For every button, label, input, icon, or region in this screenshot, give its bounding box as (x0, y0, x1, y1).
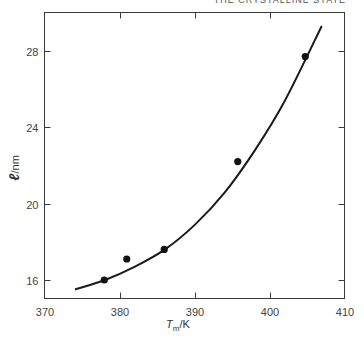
axis-ticks (45, 13, 345, 299)
tick-label: 20 (26, 199, 38, 211)
tick-label: 370 (36, 306, 54, 318)
tick-label: 28 (26, 46, 38, 58)
x-axis-label: Tm/K (166, 318, 190, 333)
fitted-curve (75, 26, 322, 290)
chart: 37038039040041016202428 Tm/K ℓ/nm (0, 0, 364, 338)
y-axis-label: ℓ/nm (6, 155, 22, 181)
tick-label: 390 (186, 306, 204, 318)
data-point (123, 255, 130, 262)
plot-frame (45, 13, 345, 299)
tick-label: 410 (336, 306, 354, 318)
data-point (302, 53, 309, 60)
tick-label: 400 (261, 306, 279, 318)
data-points (101, 53, 309, 284)
tick-label: 380 (111, 306, 129, 318)
data-point (234, 158, 241, 165)
data-point (161, 246, 168, 253)
tick-label: 24 (26, 122, 38, 134)
data-point (101, 276, 108, 283)
tick-label: 16 (26, 275, 38, 287)
tick-labels: 37038039040041016202428 (26, 46, 354, 319)
